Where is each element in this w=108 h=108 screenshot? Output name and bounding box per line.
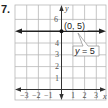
x-tick-neg1: −1 <box>44 91 53 100</box>
point-marker <box>60 29 64 33</box>
y-tick-1: 1 <box>55 74 59 83</box>
x-axis-label: x <box>102 92 107 101</box>
arrow-right-icon <box>99 29 106 34</box>
y-tick-6: 6 <box>54 15 58 24</box>
y-tick-3: 3 <box>55 50 59 59</box>
svg-text:y = 5: y = 5 <box>74 46 95 56</box>
x-tick-3: 3 <box>94 91 98 100</box>
x-tick-neg2: −2 <box>32 91 41 100</box>
equation-callout: y = 5 <box>73 33 99 56</box>
y-tick-4: 4 <box>55 39 59 48</box>
point-label: (0, 5) <box>64 21 85 31</box>
x-tick-neg3: −3 <box>20 91 29 100</box>
y-axis-label: y <box>64 4 69 13</box>
equation-rest: = 5 <box>80 46 95 56</box>
arrow-down-icon <box>59 94 63 100</box>
coordinate-graph: (0, 5) y = 5 y x 6 4 3 2 1 −3 −2 −1 1 2 … <box>0 0 108 108</box>
arrow-left-icon <box>15 29 22 34</box>
x-tick-1: 1 <box>71 91 75 100</box>
x-axis <box>15 87 106 91</box>
y-tick-2: 2 <box>55 62 59 71</box>
x-tick-2: 2 <box>83 91 87 100</box>
arrow-up-icon <box>59 5 63 11</box>
